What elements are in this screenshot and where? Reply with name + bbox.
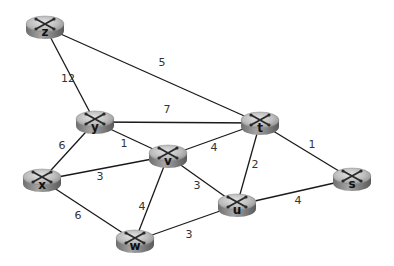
edge-weight-w-u: 3 xyxy=(186,228,193,241)
router-label-v: v xyxy=(164,154,172,168)
router-label-u: u xyxy=(233,203,242,217)
router-label-t: t xyxy=(257,121,263,135)
router-node-z: z xyxy=(26,16,64,39)
router-label-x: x xyxy=(38,178,46,192)
router-node-s: s xyxy=(333,168,371,191)
router-label-s: s xyxy=(348,177,355,191)
router-label-w: w xyxy=(129,239,140,253)
edge-weight-v-u: 3 xyxy=(194,179,201,192)
edge-weight-v-t: 4 xyxy=(211,141,218,154)
router-label-y: y xyxy=(91,120,99,134)
edge-weight-z-t: 5 xyxy=(159,56,166,69)
edge-y-t xyxy=(95,122,260,123)
edge-weight-y-t: 7 xyxy=(164,103,171,116)
network-diagram: 125716433421634 zytvxsuw xyxy=(0,0,394,266)
router-label-z: z xyxy=(42,25,49,39)
edge-weight-y-v: 1 xyxy=(121,137,128,150)
router-node-u: u xyxy=(218,194,256,217)
edge-weight-v-w: 4 xyxy=(139,200,146,213)
router-node-t: t xyxy=(241,112,279,135)
edges-layer xyxy=(42,27,352,241)
router-node-v: v xyxy=(149,145,187,168)
edge-v-w xyxy=(135,156,168,241)
edge-weight-x-v: 3 xyxy=(97,170,104,183)
edge-weight-x-w: 6 xyxy=(75,209,82,222)
edge-weight-z-y: 12 xyxy=(61,72,75,85)
edge-z-t xyxy=(45,27,260,123)
router-node-y: y xyxy=(76,111,114,134)
edge-weight-y-x: 6 xyxy=(59,139,66,152)
edge-weight-t-s: 1 xyxy=(309,138,316,151)
edge-weight-t-u: 2 xyxy=(252,158,259,171)
router-node-x: x xyxy=(23,169,61,192)
edge-weight-u-s: 4 xyxy=(295,194,302,207)
router-node-w: w xyxy=(116,230,154,253)
